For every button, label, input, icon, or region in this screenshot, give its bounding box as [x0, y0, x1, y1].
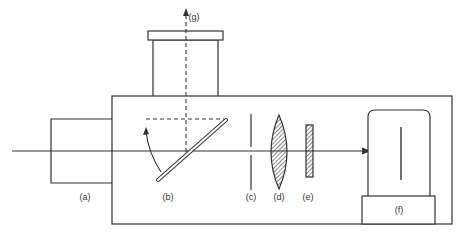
label-g: (g) [189, 12, 200, 22]
label-a: (a) [80, 192, 91, 202]
label-c: (c) [246, 192, 257, 202]
label-f: (f) [395, 205, 404, 215]
lens [271, 115, 287, 189]
filter [306, 125, 313, 177]
label-d: (d) [274, 192, 285, 202]
label-b: (b) [163, 192, 174, 202]
label-e: (e) [303, 192, 314, 202]
mirror [158, 120, 226, 180]
detector-window [368, 110, 430, 196]
instrument-diagram [0, 0, 461, 235]
